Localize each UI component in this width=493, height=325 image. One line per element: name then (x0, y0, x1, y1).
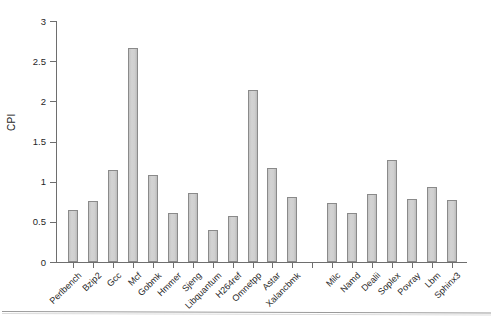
x-tick (193, 263, 194, 268)
bar (88, 201, 98, 262)
bar (267, 168, 277, 262)
x-tick (452, 263, 453, 268)
y-tick: 1 (50, 182, 56, 183)
x-tick (133, 263, 134, 268)
bar (347, 213, 357, 262)
bar (228, 216, 238, 262)
y-tick-mark (50, 222, 56, 223)
x-tick (392, 263, 393, 268)
x-tick (292, 263, 293, 268)
x-tick (93, 263, 94, 268)
y-tick-mark (50, 61, 56, 62)
x-axis-line (56, 262, 467, 263)
y-tick-mark (50, 182, 56, 183)
y-tick-mark (50, 21, 56, 22)
bar (248, 90, 258, 262)
x-tick-label: Bzip2 (81, 271, 103, 293)
bar (367, 194, 377, 262)
x-tick (73, 263, 74, 268)
x-tick (153, 263, 154, 268)
y-tick-label: 3 (41, 17, 46, 27)
x-tick (213, 263, 214, 268)
x-tick (332, 263, 333, 268)
bar (287, 197, 297, 262)
cpi-bar-chart: CPI 00.511.522.53 PerlbenchBzip2GccMcfGo… (0, 0, 493, 325)
bar (148, 175, 158, 262)
x-tick-label: Gcc (106, 271, 124, 289)
bar (327, 203, 337, 262)
y-tick-label: 0 (41, 258, 46, 268)
x-tick (372, 263, 373, 268)
y-tick-mark (50, 101, 56, 102)
x-tick (173, 263, 174, 268)
bar (108, 170, 118, 262)
y-axis-line (56, 21, 57, 263)
x-tick (412, 263, 413, 268)
y-tick: 1.5 (50, 142, 56, 143)
x-tick-label: Perlbench (48, 271, 83, 306)
scan-artifact-line-shadow (2, 313, 491, 316)
bar (447, 200, 457, 262)
y-tick: 3 (50, 21, 56, 22)
bar (407, 199, 417, 262)
y-tick-mark (50, 142, 56, 143)
bar (128, 48, 138, 262)
x-tick (253, 263, 254, 268)
y-tick-mark (50, 262, 56, 263)
y-tick-label: 0.5 (33, 218, 46, 228)
y-tick: 2 (50, 101, 56, 102)
y-tick: 2.5 (50, 61, 56, 62)
x-tick (113, 263, 114, 268)
bar (208, 230, 218, 262)
y-tick-label: 1 (41, 177, 46, 187)
x-tick (432, 263, 433, 268)
bar (168, 213, 178, 262)
x-tick (352, 263, 353, 268)
y-tick: 0.5 (50, 222, 56, 223)
x-tick (272, 263, 273, 268)
y-tick: 0 (50, 262, 56, 263)
bar (387, 160, 397, 262)
bar (427, 187, 437, 262)
bar (68, 210, 78, 262)
y-tick-label: 2.5 (33, 57, 46, 67)
x-tick (312, 263, 313, 268)
y-tick-label: 1.5 (33, 137, 46, 147)
y-tick-label: 2 (41, 97, 46, 107)
x-tick (233, 263, 234, 268)
x-tick-label: Namd (339, 271, 362, 294)
y-axis-title: CPI (6, 113, 17, 131)
bar (188, 193, 198, 262)
